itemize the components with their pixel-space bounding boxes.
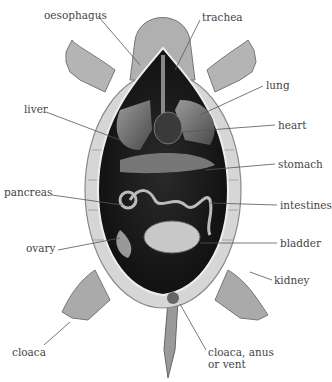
label-kidney: kidney	[274, 275, 309, 286]
label-ovary: ovary	[26, 243, 55, 254]
label-pancreas: pancreas	[4, 187, 53, 198]
front-right-leg	[207, 40, 256, 92]
hind-right-leg	[215, 270, 268, 320]
heart-organ	[154, 112, 182, 144]
label-liver: liver	[24, 104, 48, 115]
front-left-leg	[66, 40, 115, 92]
label-intestines: intestines	[280, 200, 332, 211]
bladder-organ	[144, 221, 200, 253]
label-cloaca: cloaca	[12, 347, 46, 358]
label-stomach: stomach	[278, 159, 323, 170]
label-vent-line2: or vent	[208, 359, 246, 370]
label-vent-line1: cloaca, anus	[208, 347, 274, 358]
vent-organ	[167, 292, 179, 304]
label-bladder: bladder	[280, 238, 321, 249]
tail	[164, 300, 178, 378]
label-lung: lung	[266, 80, 290, 91]
hind-left-leg	[62, 270, 110, 320]
label-heart: heart	[278, 120, 306, 131]
label-oesophagus: oesophagus	[44, 10, 107, 21]
label-trachea: trachea	[202, 12, 243, 23]
